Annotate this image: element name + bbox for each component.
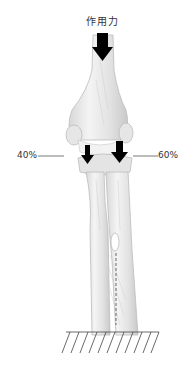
right-percent-label: 60% (158, 150, 178, 160)
force-label: 作用力 (86, 13, 119, 28)
forearm-force-diagram: 作用力 40% 60% (0, 0, 187, 365)
bone-illustration (0, 0, 187, 365)
left-percent-label: 40% (17, 150, 37, 160)
ground-hatch (62, 332, 159, 353)
